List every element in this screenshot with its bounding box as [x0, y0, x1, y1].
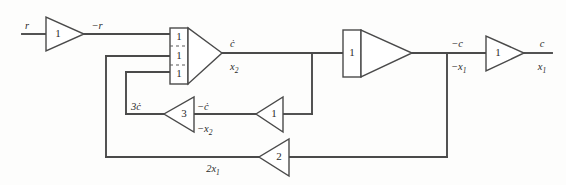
- svg-text:x2: x2: [229, 61, 239, 75]
- velocity-inverter-amplifier: 1: [256, 97, 283, 132]
- label-minus-x2-sub: 2: [209, 128, 213, 137]
- label-x2-group: x2: [229, 61, 239, 75]
- block-diagram-figure: 1 1 1 1 1 1 3 1: [0, 0, 566, 185]
- velocity-feedback-triangle: [164, 97, 194, 132]
- label-x2-sub: 2: [235, 66, 239, 75]
- label-minus-x1-base: −x: [451, 61, 463, 72]
- label-minus-x1-sub: 1: [463, 66, 467, 75]
- second-integrator-block: 1: [343, 30, 412, 77]
- label-minus-x2-base: −x: [197, 123, 209, 134]
- summer-gain-3: 1: [176, 67, 182, 79]
- label-cdot: ċ: [230, 38, 235, 49]
- label-output-x1-sub: 1: [542, 66, 546, 75]
- position-feedback-amplifier: 2: [259, 139, 289, 176]
- label-minus-r: −r: [91, 20, 103, 31]
- label-output-x1-group: x1: [537, 61, 546, 75]
- label-input-r: r: [25, 20, 30, 31]
- summing-integrator-triangle: [188, 28, 222, 84]
- label-minus-c: −c: [451, 38, 463, 49]
- summer-gain-1: 1: [176, 30, 182, 42]
- label-2x1-base: 2x: [206, 163, 216, 174]
- svg-text:−x2: −x2: [197, 123, 213, 137]
- output-inverter-amplifier: 1: [486, 36, 524, 71]
- label-2x1-group: 2x1: [206, 163, 220, 177]
- svg-text:x1: x1: [537, 61, 546, 75]
- velocity-feedback-gain: 3: [181, 107, 187, 119]
- svg-text:2x1: 2x1: [206, 163, 220, 177]
- position-feedback-gain: 2: [276, 150, 282, 162]
- input-inverter-amplifier: 1: [46, 17, 84, 51]
- summing-integrator-block: 1 1 1: [170, 28, 222, 84]
- output-inverter-triangle: [486, 36, 524, 71]
- input-inverter-gain: 1: [55, 27, 61, 39]
- position-feedback-triangle: [259, 139, 289, 176]
- label-3cdot: 3ċ: [130, 101, 141, 112]
- label-minus-cdot: −ċ: [197, 101, 209, 112]
- second-integrator-triangle: [361, 30, 412, 77]
- label-minus-x1-group: −x1: [451, 61, 467, 75]
- second-integrator-gain: 1: [349, 46, 355, 58]
- label-2x1-sub: 1: [216, 168, 220, 177]
- velocity-inverter-gain: 1: [271, 107, 277, 119]
- block-diagram-canvas: 1 1 1 1 1 1 3 1: [0, 0, 566, 185]
- summer-gain-2: 1: [176, 49, 182, 61]
- svg-text:−x1: −x1: [451, 61, 467, 75]
- label-output-c: c: [540, 38, 545, 49]
- input-inverter-triangle: [46, 17, 84, 51]
- output-inverter-gain: 1: [495, 46, 501, 58]
- velocity-inverter-triangle: [256, 97, 283, 132]
- label-minus-x2-group: −x2: [197, 123, 213, 137]
- velocity-feedback-amplifier: 3: [164, 97, 194, 132]
